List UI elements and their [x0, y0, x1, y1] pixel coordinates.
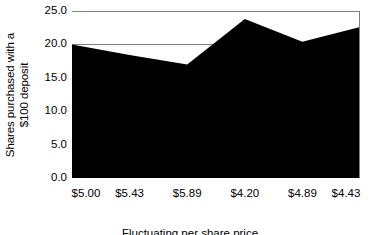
- x-tick-label: $4.43: [332, 186, 361, 200]
- x-tick-label: $5.43: [115, 186, 144, 200]
- y-tick-label: 15.0: [45, 72, 67, 84]
- y-tick-label: 25.0: [45, 5, 67, 17]
- y-axis-tick-labels: 0.05.010.015.020.025.0: [30, 0, 70, 190]
- x-tick-label: $5.00: [72, 186, 101, 200]
- y-axis-title: Shares purchased with a $100 deposit: [0, 0, 34, 190]
- x-axis-tick-labels: $5.00$5.43$5.89$4.20$4.89$4.43: [72, 186, 360, 208]
- x-axis-title: Fluctuating per share price: [0, 226, 380, 235]
- y-tick-label: 10.0: [45, 105, 67, 117]
- y-tick-label: 0.0: [51, 172, 67, 184]
- x-tick-label: $4.89: [288, 186, 317, 200]
- y-tick-label: 20.0: [45, 38, 67, 50]
- plot-area: [72, 11, 360, 178]
- plot-svg: [72, 11, 360, 178]
- area-series-fill: [72, 19, 360, 178]
- x-tick-label: $4.20: [230, 186, 259, 200]
- area-chart: Shares purchased with a $100 deposit 0.0…: [0, 0, 380, 235]
- x-tick-label: $5.89: [173, 186, 202, 200]
- plot-right-edge: [359, 11, 360, 178]
- y-tick-label: 5.0: [51, 139, 67, 151]
- y-axis-title-line-2: $100 deposit: [17, 33, 31, 157]
- y-axis-title-line-1: Shares purchased with a: [3, 33, 17, 157]
